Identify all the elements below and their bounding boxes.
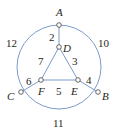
node-A [57, 23, 62, 28]
node-label-E: E [70, 85, 78, 97]
edge-weight-DE: 3 [72, 55, 78, 67]
node-label-F: F [37, 85, 45, 97]
edge-weight-EB: 4 [86, 74, 92, 86]
node-label-C: C [7, 90, 15, 102]
node-F [39, 78, 44, 83]
edge-weight-CF: 6 [26, 75, 32, 87]
node-label-D: D [62, 42, 71, 54]
edge-weight-CA: 12 [6, 37, 17, 49]
node-label-A: A [55, 6, 63, 18]
node-C [19, 90, 24, 95]
weighted-graph-diagram: 234567101112ABCDEF [0, 0, 118, 133]
edge-weight-FE: 5 [56, 85, 62, 97]
node-label-B: B [102, 90, 109, 102]
node-B [96, 90, 101, 95]
node-D [57, 45, 62, 50]
node-E [76, 78, 81, 83]
edge-weight-AD: 2 [49, 31, 55, 43]
edge-weight-DF: 7 [38, 55, 44, 67]
edge-weight-BC: 11 [53, 117, 64, 129]
edge-DF [41, 47, 59, 80]
edge-weight-AB: 10 [98, 37, 110, 49]
